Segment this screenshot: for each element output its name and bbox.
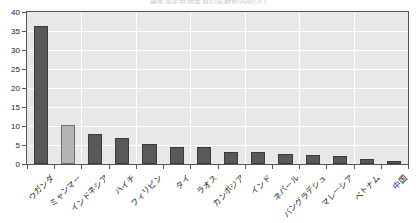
bar [88,134,102,164]
x-tick-mark [381,165,382,169]
x-tick-mark [354,165,355,169]
x-tick-mark [218,165,219,169]
bar [333,156,347,164]
y-tick-label: 25 [11,65,20,74]
y-tick-label: 40 [11,8,20,17]
y-tick-label: 10 [11,122,20,131]
x-tick-mark [326,165,327,169]
bars-group [27,12,408,164]
x-tick-mark [408,165,409,169]
x-tick-mark [190,165,191,169]
y-tick-label: 20 [11,84,20,93]
bar [115,138,129,164]
y-tick-label: 30 [11,46,20,55]
bar [387,161,401,164]
y-tick-label: 15 [11,103,20,112]
bar [170,147,184,164]
bar [61,125,75,164]
bar [360,159,374,164]
x-tick-mark [81,165,82,169]
x-tick-mark [27,165,28,169]
x-tick-mark [163,165,164,169]
y-tick-label: 0 [16,160,20,169]
bar [306,155,320,164]
y-axis: 0510152025303540 [0,11,26,165]
x-tick-mark [109,165,110,169]
bar [278,154,292,164]
bar [142,144,156,164]
x-tick-mark [272,165,273,169]
bar [224,152,238,164]
x-tick-mark [136,165,137,169]
bar [251,152,265,164]
x-tick-mark [299,165,300,169]
bar-chart: 難民認定申請者数の国籍別内訳(人) 0510152025303540 ウガンダミ… [0,0,416,223]
y-tick-label: 5 [16,141,20,150]
x-axis: ウガンダミャンマーインドネシアハイチフィリピンタイラオスカンボジアインドネパール… [27,165,408,223]
x-tick-mark [245,165,246,169]
bar [34,26,48,164]
y-tick-label: 35 [11,27,20,36]
chart-title: 難民認定申請者数の国籍別内訳(人) [0,0,416,4]
x-tick-mark [54,165,55,169]
bar [197,147,211,164]
